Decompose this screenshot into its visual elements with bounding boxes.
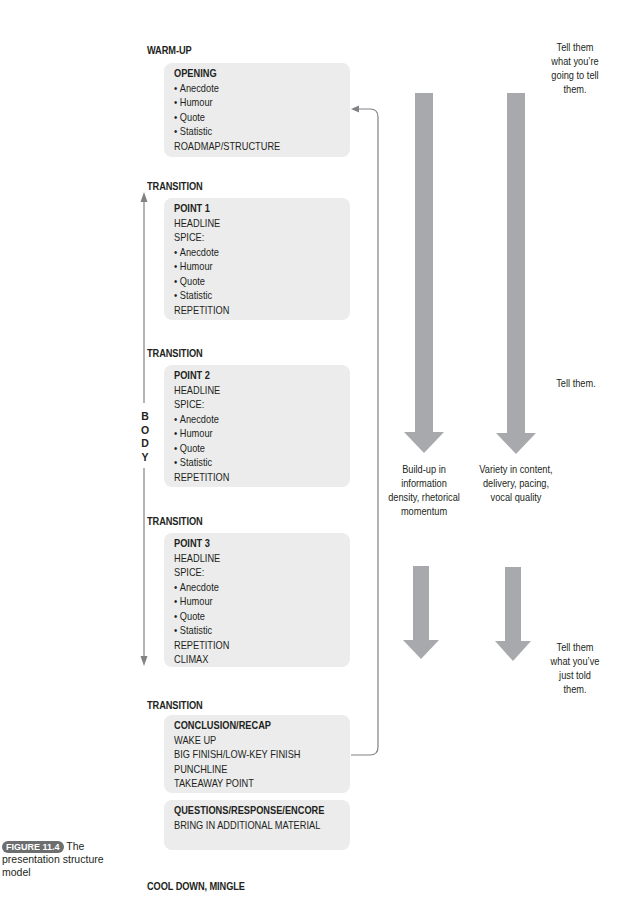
- questions-item: BRING IN ADDITIONAL MATERIAL: [174, 818, 329, 833]
- point1-item: Statistic: [174, 288, 329, 303]
- point2-footer: REPETITION: [174, 470, 329, 485]
- conclusion-item: BIG FINISH/LOW-KEY FINISH: [174, 747, 329, 762]
- point3-item: Quote: [174, 609, 329, 624]
- note-line: what you’ve: [535, 654, 614, 668]
- point3-title: POINT 3: [174, 536, 329, 551]
- body-letter: B: [139, 410, 151, 424]
- point3-item: Anecdote: [174, 580, 329, 595]
- note-line: just told: [535, 668, 614, 682]
- point1-item: Anecdote: [174, 245, 329, 260]
- buildup-label: Build-up in information density, rhetori…: [383, 462, 466, 518]
- opening-title: OPENING: [174, 66, 329, 81]
- point3-spice: SPICE:: [174, 565, 329, 580]
- conclusion-box: CONCLUSION/RECAP WAKE UP BIG FINISH/LOW-…: [164, 715, 350, 793]
- point2-item: Quote: [174, 441, 329, 456]
- note-line: what you’re: [535, 54, 614, 68]
- point3-item: Statistic: [174, 623, 329, 638]
- note-line: them.: [535, 682, 614, 696]
- point3-headline: HEADLINE: [174, 551, 329, 566]
- transition-heading-1: TRANSITION: [147, 180, 203, 192]
- point2-headline: HEADLINE: [174, 383, 329, 398]
- label-line: Build-up in: [383, 462, 466, 476]
- point1-spice: SPICE:: [174, 230, 329, 245]
- transition-heading-4: TRANSITION: [147, 699, 203, 711]
- questions-title: QUESTIONS/RESPONSE/ENCORE: [174, 803, 329, 818]
- point2-spice: SPICE:: [174, 397, 329, 412]
- point3-item: Humour: [174, 594, 329, 609]
- conclusion-item: PUNCHLINE: [174, 762, 329, 777]
- body-label: B O D Y: [139, 410, 151, 464]
- label-line: delivery, pacing,: [474, 476, 558, 490]
- label-line: information: [383, 476, 466, 490]
- point1-item: Quote: [174, 274, 329, 289]
- return-loop-arrow: [351, 106, 378, 756]
- note-tell-after: Tell them what you’ve just told them.: [535, 640, 614, 696]
- point1-item: Humour: [174, 259, 329, 274]
- point1-box: POINT 1 HEADLINE SPICE: Anecdote Humour …: [164, 198, 350, 320]
- point2-title: POINT 2: [174, 368, 329, 383]
- figure-badge: FIGURE 11.4: [2, 841, 64, 853]
- note-line: Tell them: [535, 640, 614, 654]
- cool-down-heading: COOL DOWN, MINGLE: [147, 880, 245, 892]
- label-line: density, rhetorical: [383, 490, 466, 504]
- body-letter: D: [139, 437, 151, 451]
- point2-item: Statistic: [174, 455, 329, 470]
- transition-heading-2: TRANSITION: [147, 347, 203, 359]
- label-line: Variety in content,: [474, 462, 558, 476]
- point3-climax: CLIMAX: [174, 652, 329, 667]
- point1-title: POINT 1: [174, 201, 329, 216]
- transition-heading-3: TRANSITION: [147, 515, 203, 527]
- opening-footer: ROADMAP/STRUCTURE: [174, 139, 329, 154]
- opening-box: OPENING Anecdote Humour Quote Statistic …: [164, 63, 350, 157]
- point3-box: POINT 3 HEADLINE SPICE: Anecdote Humour …: [164, 533, 350, 667]
- opening-item: Statistic: [174, 124, 329, 139]
- conclusion-item: WAKE UP: [174, 733, 329, 748]
- buildup-arrow-lower: [403, 566, 439, 659]
- body-letter: O: [139, 424, 151, 438]
- point2-item: Anecdote: [174, 412, 329, 427]
- variety-arrow-lower: [495, 567, 531, 661]
- body-letter: Y: [139, 451, 151, 465]
- note-line: Tell them.: [544, 376, 607, 390]
- opening-item: Anecdote: [174, 81, 329, 96]
- note-tell-before: Tell them what you’re going to tell them…: [535, 40, 614, 96]
- conclusion-item: TAKEAWAY POINT: [174, 776, 329, 791]
- point2-item: Humour: [174, 426, 329, 441]
- point1-footer: REPETITION: [174, 303, 329, 318]
- point2-box: POINT 2 HEADLINE SPICE: Anecdote Humour …: [164, 365, 350, 487]
- figure-caption: FIGURE 11.4 The presentation structure m…: [2, 840, 132, 879]
- label-line: momentum: [383, 504, 466, 518]
- label-line: vocal quality: [474, 490, 558, 504]
- buildup-arrow-upper: [404, 93, 444, 453]
- opening-item: Humour: [174, 95, 329, 110]
- point1-headline: HEADLINE: [174, 216, 329, 231]
- note-line: going to tell: [535, 68, 614, 82]
- conclusion-title: CONCLUSION/RECAP: [174, 718, 329, 733]
- variety-arrow-upper: [496, 93, 536, 454]
- questions-box: QUESTIONS/RESPONSE/ENCORE BRING IN ADDIT…: [164, 800, 350, 850]
- warm-up-heading: WARM-UP: [147, 44, 192, 56]
- note-line: them.: [535, 82, 614, 96]
- note-line: Tell them: [535, 40, 614, 54]
- variety-label: Variety in content, delivery, pacing, vo…: [474, 462, 558, 504]
- note-tell: Tell them.: [544, 376, 607, 390]
- point3-repetition: REPETITION: [174, 638, 329, 653]
- opening-item: Quote: [174, 110, 329, 125]
